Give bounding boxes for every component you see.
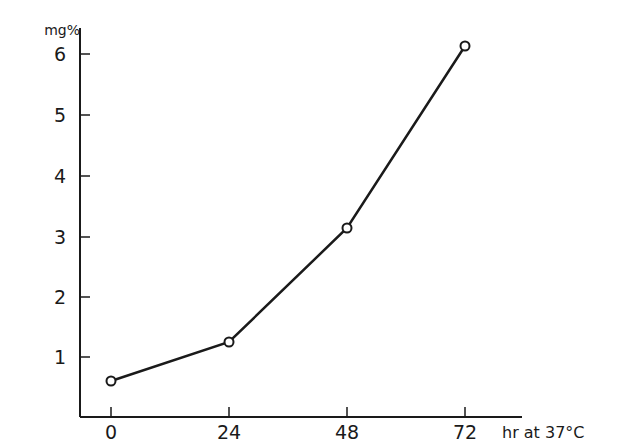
y-ticks bbox=[80, 54, 90, 357]
y-axis-label: mg% bbox=[44, 22, 80, 38]
y-tick-label: 4 bbox=[54, 165, 66, 187]
data-point-marker bbox=[107, 377, 116, 386]
y-tick-label: 3 bbox=[54, 226, 66, 248]
x-tick-label: 24 bbox=[217, 421, 241, 443]
data-point-marker bbox=[225, 338, 234, 347]
data-point-marker bbox=[343, 224, 352, 233]
x-tick-label: 0 bbox=[105, 421, 117, 443]
y-tick-labels: 1 2 3 4 5 6 bbox=[54, 43, 66, 368]
x-ticks bbox=[111, 407, 465, 417]
data-point-marker bbox=[461, 42, 470, 51]
data-markers bbox=[107, 42, 470, 386]
x-tick-label: 72 bbox=[453, 421, 477, 443]
y-tick-label: 1 bbox=[54, 346, 66, 368]
data-line bbox=[111, 46, 465, 381]
line-chart: 1 2 3 4 5 6 mg% 0 24 48 72 hr at 37°C bbox=[0, 0, 628, 445]
y-tick-label: 2 bbox=[54, 286, 66, 308]
y-tick-label: 6 bbox=[54, 43, 66, 65]
x-tick-label: 48 bbox=[335, 421, 359, 443]
x-axis-label: hr at 37°C bbox=[502, 423, 585, 442]
y-tick-label: 5 bbox=[54, 104, 66, 126]
x-tick-labels: 0 24 48 72 bbox=[105, 421, 477, 443]
